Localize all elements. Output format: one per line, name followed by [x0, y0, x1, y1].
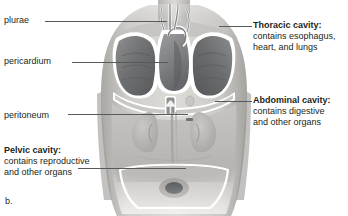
label-thoracic-cavity-line1: contains esophagus, — [253, 31, 336, 42]
label-pelvic-cavity-heading: Pelvic cavity: — [4, 145, 90, 156]
label-peritoneum: peritoneum — [4, 110, 49, 121]
label-pelvic-cavity-line1: contains reproductive — [4, 156, 90, 167]
label-abdominal-cavity-line2: and other organs — [253, 117, 331, 128]
label-thoracic-cavity-line2: heart, and lungs — [253, 42, 336, 53]
leader-line-thoracic-cavity — [219, 26, 252, 27]
label-pelvic-cavity-line2: and other organs — [4, 167, 90, 178]
label-plurae-text: plurae — [4, 15, 29, 26]
leader-line-pericardium — [72, 62, 168, 63]
body-cavities-figure: plurae pericardium peritoneum Pelvic cav… — [0, 0, 348, 216]
label-thoracic-cavity-heading: Thoracic cavity: — [253, 20, 336, 31]
label-abdominal-cavity: Abdominal cavity: contains digestive and… — [253, 95, 331, 128]
label-thoracic-cavity: Thoracic cavity: contains esophagus, hea… — [253, 20, 336, 53]
label-pelvic-cavity: Pelvic cavity: contains reproductive and… — [4, 145, 90, 178]
leader-line-abdominal-cavity — [215, 101, 252, 102]
label-pericardium: pericardium — [4, 56, 51, 67]
label-pericardium-text: pericardium — [4, 56, 51, 67]
label-peritoneum-text: peritoneum — [4, 110, 49, 121]
label-plurae: plurae — [4, 15, 29, 26]
figure-caption: b. — [5, 196, 13, 206]
leader-line-plurae — [45, 21, 167, 22]
leader-line-pelvic-cavity — [78, 168, 186, 169]
label-abdominal-cavity-heading: Abdominal cavity: — [253, 95, 331, 106]
label-abdominal-cavity-line1: contains digestive — [253, 106, 331, 117]
leader-line-peritoneum — [68, 114, 188, 115]
